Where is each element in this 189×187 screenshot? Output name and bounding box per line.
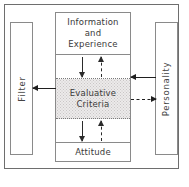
arrow-evaluative-to-info-icon	[101, 57, 102, 77]
arrow-head	[151, 96, 157, 102]
upper-arrow-band	[56, 55, 130, 79]
filter-box-label: Filter	[17, 76, 27, 101]
arrow-evaluative-to-filter-icon	[33, 88, 56, 89]
personality-box[interactable]: Personality	[155, 22, 178, 155]
attitude-box-label: Attitude	[75, 147, 111, 158]
arrow-evaluative-to-personality-icon	[131, 99, 156, 100]
arrow-head	[79, 136, 85, 142]
information-line-1: Information	[67, 17, 118, 28]
information-box-label: Information and Experience	[67, 17, 118, 50]
arrow-head	[130, 74, 136, 80]
information-line-2: and	[67, 28, 118, 39]
personality-box-label: Personality	[162, 61, 172, 116]
information-line-3: Experience	[67, 39, 118, 50]
arrow-head	[98, 56, 104, 62]
arrow-personality-to-evaluative-icon	[131, 77, 156, 78]
arrow-attitude-to-evaluative-icon	[101, 121, 102, 141]
arrow-head	[79, 72, 85, 78]
evaluative-line-1: Evaluative	[70, 88, 117, 99]
arrow-head	[32, 85, 38, 91]
center-stack: Information and Experience Evaluative Cr…	[55, 12, 131, 162]
arrow-head	[98, 120, 104, 126]
attitude-box[interactable]: Attitude	[56, 143, 130, 161]
information-box[interactable]: Information and Experience	[56, 13, 130, 55]
arrow-evaluative-to-attitude-icon	[82, 121, 83, 141]
evaluative-criteria-label: Evaluative Criteria	[70, 88, 117, 110]
evaluative-line-2: Criteria	[70, 99, 117, 110]
lower-arrow-band	[56, 119, 130, 143]
filter-box[interactable]: Filter	[10, 22, 33, 155]
arrow-info-to-evaluative-icon	[82, 57, 83, 77]
evaluative-criteria-box[interactable]: Evaluative Criteria	[56, 79, 130, 119]
diagram-canvas: Filter Personality Information and Exper…	[0, 0, 189, 187]
